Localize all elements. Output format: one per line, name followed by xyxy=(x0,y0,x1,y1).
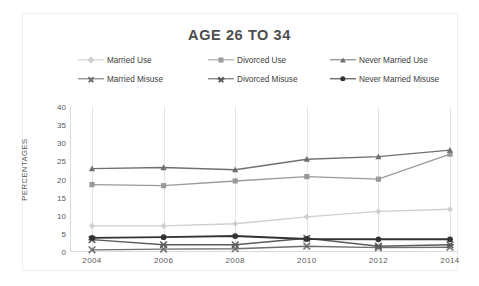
legend-key xyxy=(78,74,104,84)
legend-row: Married MisuseDivorced MisuseNever Marri… xyxy=(78,74,438,93)
chart-figure: AGE 26 TO 34 Married UseDivorced UseNeve… xyxy=(0,0,479,286)
diamond-data-point xyxy=(447,206,453,212)
x-tick-label: 2006 xyxy=(154,256,173,265)
legend-key xyxy=(330,74,356,84)
diamond-data-point xyxy=(89,223,95,229)
legend-item-married-use[interactable]: Married Use xyxy=(78,55,152,65)
y-axis-ticks: 4035302520151050 xyxy=(44,0,66,286)
series-married-misuse xyxy=(89,243,454,253)
legend-key xyxy=(330,55,356,65)
series-divorced-use xyxy=(89,152,452,189)
legend-label: Divorced Use xyxy=(237,56,286,65)
chart-legend: Married UseDivorced UseNever Married Use… xyxy=(78,55,438,95)
legend-key xyxy=(208,74,234,84)
series-line xyxy=(92,209,450,226)
x-marker-icon xyxy=(88,76,95,83)
y-tick-label: 30 xyxy=(44,139,66,148)
x-tick-label: 2008 xyxy=(225,256,244,265)
x-axis-ticks: 200420062008201020122014 xyxy=(0,256,479,270)
y-tick-label: 25 xyxy=(44,157,66,166)
legend-row: Married UseDivorced UseNever Married Use xyxy=(78,55,438,74)
circle-data-point xyxy=(161,234,167,240)
legend-label: Never Married Use xyxy=(359,56,428,65)
y-tick-label: 40 xyxy=(44,103,66,112)
diamond-marker-icon xyxy=(87,56,94,63)
x-tick-label: 2004 xyxy=(82,256,101,265)
legend-key xyxy=(208,55,234,65)
legend-label: Married Use xyxy=(107,56,152,65)
circle-data-point xyxy=(89,235,95,241)
diamond-data-point xyxy=(375,208,381,214)
square-data-point xyxy=(304,174,309,179)
x-bar-data-point xyxy=(232,241,239,248)
x-tick-label: 2010 xyxy=(297,256,316,265)
series-never-married-use xyxy=(89,147,453,172)
legend-item-divorced-use[interactable]: Divorced Use xyxy=(208,55,286,65)
y-tick-label: 35 xyxy=(44,121,66,130)
series-line xyxy=(92,150,450,170)
series-line xyxy=(92,246,450,250)
square-marker-icon xyxy=(219,58,224,63)
plot-area xyxy=(70,107,458,252)
x-tick-label: 2014 xyxy=(440,256,459,265)
x-bar-marker-icon xyxy=(218,76,225,83)
diamond-data-point xyxy=(232,221,238,227)
y-tick-label: 5 xyxy=(44,229,66,238)
legend-key xyxy=(78,55,104,65)
circle-data-point xyxy=(232,233,238,239)
series-married-use xyxy=(89,206,453,229)
diamond-data-point xyxy=(304,214,310,220)
legend-item-never-married-use[interactable]: Never Married Use xyxy=(330,55,428,65)
legend-item-never-married-misuse[interactable]: Never Married Misuse xyxy=(330,74,439,84)
legend-label: Married Misuse xyxy=(107,75,163,84)
y-axis-label: PERCENTAGES xyxy=(20,128,29,212)
series-line xyxy=(92,154,450,186)
square-data-point xyxy=(233,178,238,183)
series-layer xyxy=(70,107,458,252)
circle-data-point xyxy=(447,236,453,242)
triangle-marker-icon xyxy=(340,58,346,63)
chart-title: AGE 26 TO 34 xyxy=(0,27,479,43)
square-data-point xyxy=(161,183,166,188)
y-tick-label: 20 xyxy=(44,175,66,184)
circle-data-point xyxy=(376,236,382,242)
legend-label: Never Married Misuse xyxy=(359,75,439,84)
circle-marker-icon xyxy=(340,76,345,81)
y-tick-label: 15 xyxy=(44,193,66,202)
x-tick-label: 2012 xyxy=(369,256,388,265)
legend-label: Divorced Misuse xyxy=(237,75,298,84)
series-line xyxy=(92,236,450,239)
legend-item-married-misuse[interactable]: Married Misuse xyxy=(78,74,163,84)
square-data-point xyxy=(89,182,94,187)
legend-item-divorced-misuse[interactable]: Divorced Misuse xyxy=(208,74,298,84)
square-data-point xyxy=(376,177,381,182)
diamond-data-point xyxy=(161,223,167,229)
x-bar-data-point xyxy=(160,241,167,248)
y-tick-label: 10 xyxy=(44,211,66,220)
circle-data-point xyxy=(304,236,310,242)
